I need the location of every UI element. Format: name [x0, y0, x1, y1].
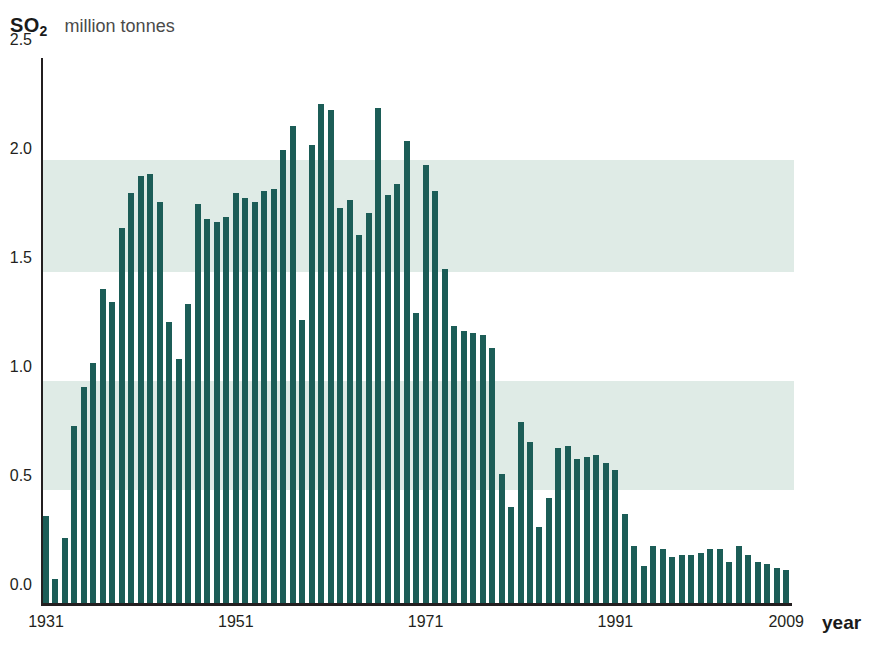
bar	[489, 348, 495, 603]
bar	[423, 165, 429, 603]
bar	[669, 557, 675, 603]
bar	[527, 442, 533, 603]
bar	[413, 313, 419, 603]
bar	[546, 498, 552, 603]
bar	[366, 213, 372, 603]
x-axis-title: year	[822, 612, 861, 634]
bar	[461, 331, 467, 604]
x-axis-tick-label: 1971	[408, 613, 444, 631]
bar	[499, 474, 505, 603]
bar	[299, 320, 305, 603]
bar	[195, 204, 201, 603]
x-axis-ticks: 19311951197119912009	[41, 613, 841, 643]
y-axis-line	[41, 58, 43, 606]
bar	[347, 200, 353, 603]
bar	[641, 566, 647, 603]
bar	[518, 422, 524, 603]
bar	[166, 322, 172, 603]
bar	[223, 217, 229, 603]
bar	[62, 538, 68, 603]
bar	[555, 448, 561, 603]
bar	[679, 555, 685, 603]
bars-layer	[43, 58, 792, 603]
y-axis-tick-label: 2.0	[10, 140, 32, 158]
bar	[536, 527, 542, 603]
bar	[375, 108, 381, 603]
series-subscript: 2	[40, 23, 48, 39]
x-axis-tick-label: 1991	[598, 613, 634, 631]
bar	[81, 387, 87, 603]
bar	[309, 145, 315, 603]
bar	[432, 191, 438, 603]
bar	[271, 189, 277, 603]
bar	[565, 446, 571, 603]
bar	[631, 546, 637, 603]
bar	[138, 176, 144, 603]
bar	[470, 333, 476, 603]
bar	[176, 359, 182, 603]
y-axis-tick-label: 0.5	[10, 467, 32, 485]
bar	[774, 568, 780, 603]
bar	[233, 193, 239, 603]
x-axis-tick-label: 1951	[218, 613, 254, 631]
bar	[242, 198, 248, 603]
bar	[356, 235, 362, 603]
bar	[404, 141, 410, 603]
bar	[650, 546, 656, 603]
bar	[707, 549, 713, 604]
bar	[128, 193, 134, 603]
bar	[508, 507, 514, 603]
bar	[204, 219, 210, 603]
chart-header: SO2 million tonnes	[10, 14, 175, 40]
bar	[603, 463, 609, 603]
bar	[726, 562, 732, 603]
bar	[252, 202, 258, 603]
bar	[451, 326, 457, 603]
bar	[119, 228, 125, 603]
bar	[622, 514, 628, 603]
bar	[280, 150, 286, 603]
bar	[442, 269, 448, 603]
bar	[688, 555, 694, 603]
bar	[214, 222, 220, 604]
y-axis-tick-label: 1.5	[10, 249, 32, 267]
bar	[480, 335, 486, 603]
bar	[157, 202, 163, 603]
bar	[584, 457, 590, 603]
x-axis-tick-label: 2009	[768, 613, 804, 631]
y-axis-tick-label: 0.0	[10, 576, 32, 594]
bar	[71, 426, 77, 603]
x-axis-line	[41, 603, 792, 606]
bar	[593, 455, 599, 603]
bar	[290, 126, 296, 603]
bar	[147, 174, 153, 603]
y-axis-tick-label: 2.5	[10, 31, 32, 49]
x-axis-tick-label: 1931	[28, 613, 64, 631]
bar	[337, 208, 343, 603]
bar	[385, 195, 391, 603]
bar	[736, 546, 742, 603]
bar	[328, 110, 334, 603]
unit-label: million tonnes	[65, 16, 175, 37]
bar	[612, 470, 618, 603]
bar	[717, 549, 723, 604]
bar	[318, 104, 324, 603]
bar	[394, 184, 400, 603]
bar	[261, 191, 267, 603]
bar	[764, 564, 770, 603]
bar	[755, 562, 761, 603]
bar	[574, 459, 580, 603]
bar	[783, 570, 789, 603]
bar	[660, 549, 666, 604]
bar	[90, 363, 96, 603]
bar	[698, 553, 704, 603]
plot-area: 0.00.51.01.52.02.5	[41, 58, 841, 606]
bar	[745, 555, 751, 603]
bar	[109, 302, 115, 603]
bar	[43, 516, 49, 603]
y-axis-tick-label: 1.0	[10, 358, 32, 376]
bar	[52, 579, 58, 603]
bar	[185, 304, 191, 603]
bar	[100, 289, 106, 603]
